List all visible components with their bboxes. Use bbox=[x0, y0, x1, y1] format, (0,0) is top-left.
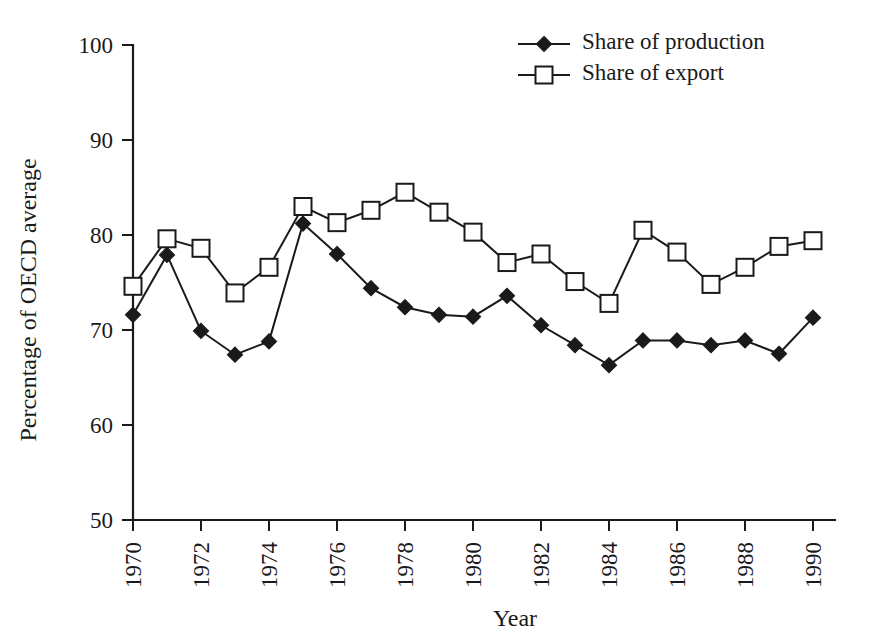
marker-open-square bbox=[737, 259, 754, 276]
marker-filled-diamond bbox=[670, 333, 685, 348]
marker-filled-diamond bbox=[738, 333, 753, 348]
marker-open-square bbox=[465, 224, 482, 241]
x-tick-label: 1984 bbox=[597, 542, 622, 589]
marker-filled-diamond bbox=[160, 247, 175, 262]
marker-open-square bbox=[703, 276, 720, 293]
legend-label: Share of export bbox=[582, 60, 724, 85]
marker-filled-diamond bbox=[537, 37, 552, 52]
marker-open-square bbox=[536, 67, 553, 84]
marker-open-square bbox=[295, 198, 312, 215]
marker-filled-diamond bbox=[636, 333, 651, 348]
tick-labels: 5060708090100197019721974197619781980198… bbox=[79, 33, 827, 588]
marker-filled-diamond bbox=[602, 358, 617, 373]
marker-open-square bbox=[431, 204, 448, 221]
line-chart: 5060708090100197019721974197619781980198… bbox=[0, 0, 876, 643]
marker-open-square bbox=[499, 254, 516, 271]
marker-filled-diamond bbox=[126, 307, 141, 322]
marker-filled-diamond bbox=[568, 338, 583, 353]
marker-filled-diamond bbox=[194, 323, 209, 338]
x-tick-label: 1980 bbox=[461, 542, 486, 588]
marker-filled-diamond bbox=[228, 347, 243, 362]
legend-item: Share of export bbox=[518, 60, 724, 85]
y-axis-title: Percentage of OECD average bbox=[15, 158, 41, 441]
marker-open-square bbox=[533, 246, 550, 263]
y-tick-label: 70 bbox=[90, 318, 113, 343]
marker-open-square bbox=[771, 238, 788, 255]
marker-open-square bbox=[601, 295, 618, 312]
marker-open-square bbox=[635, 222, 652, 239]
marker-open-square bbox=[363, 202, 380, 219]
x-tick-label: 1990 bbox=[801, 542, 826, 588]
marker-filled-diamond bbox=[398, 300, 413, 315]
marker-open-square bbox=[227, 284, 244, 301]
marker-open-square bbox=[329, 214, 346, 231]
marker-open-square bbox=[567, 273, 584, 290]
marker-filled-diamond bbox=[432, 307, 447, 322]
marker-filled-diamond bbox=[466, 309, 481, 324]
y-tick-label: 60 bbox=[90, 413, 113, 438]
legend-item: Share of production bbox=[518, 29, 765, 54]
y-tick-label: 80 bbox=[90, 223, 113, 248]
x-tick-label: 1978 bbox=[393, 542, 418, 588]
marker-open-square bbox=[193, 240, 210, 257]
marker-open-square bbox=[669, 244, 686, 261]
chart-figure: 5060708090100197019721974197619781980198… bbox=[0, 0, 876, 643]
legend-label: Share of production bbox=[582, 29, 765, 54]
x-tick-label: 1976 bbox=[325, 542, 350, 588]
marker-filled-diamond bbox=[262, 334, 277, 349]
x-tick-label: 1972 bbox=[189, 542, 214, 588]
y-tick-label: 100 bbox=[79, 33, 114, 58]
x-tick-label: 1986 bbox=[665, 542, 690, 588]
x-tick-label: 1974 bbox=[257, 542, 282, 589]
x-tick-label: 1988 bbox=[733, 542, 758, 588]
marker-open-square bbox=[159, 230, 176, 247]
x-tick-label: 1982 bbox=[529, 542, 554, 588]
marker-open-square bbox=[125, 278, 142, 295]
x-tick-label: 1970 bbox=[121, 542, 146, 588]
y-tick-label: 90 bbox=[90, 128, 113, 153]
series-share-of-export bbox=[125, 184, 822, 312]
marker-open-square bbox=[805, 232, 822, 249]
y-tick-label: 50 bbox=[90, 508, 113, 533]
x-axis-title: Year bbox=[493, 605, 537, 631]
marker-filled-diamond bbox=[704, 338, 719, 353]
marker-open-square bbox=[397, 184, 414, 201]
marker-open-square bbox=[261, 259, 278, 276]
chart-legend: Share of productionShare of export bbox=[518, 29, 765, 85]
data-series bbox=[125, 184, 822, 373]
